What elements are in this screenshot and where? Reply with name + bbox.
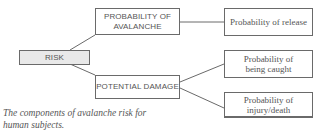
figure-caption: The components of avalanche risk for hum… (3, 107, 203, 131)
caption-line1: The components of avalanche risk for (3, 107, 203, 119)
node-probability-of-release: Probability of release (224, 8, 313, 36)
node-label: POTENTIAL DAMAGE (96, 82, 179, 92)
node-label-line1: Probability of (244, 95, 294, 105)
node-probability-of-avalanche: PROBABILITY OF AVALANCHE (95, 8, 180, 35)
node-label-line1: Probability of (244, 54, 294, 64)
connector-risk-probability (70, 35, 95, 50)
node-label-line2: being caught (245, 64, 291, 74)
connector-risk-damage (70, 64, 95, 75)
node-potential-damage: POTENTIAL DAMAGE (95, 75, 180, 99)
node-label-line2: injury/death (247, 105, 291, 115)
node-label-line1: PROBABILITY OF (104, 12, 171, 22)
node-label-line2: AVALANCHE (113, 22, 161, 32)
node-risk: RISK (19, 50, 90, 65)
node-probability-of-injury-death: Probability of injury/death (224, 92, 313, 118)
connector-damage-injury (180, 88, 224, 108)
node-risk-label: RISK (45, 53, 64, 63)
caption-line2: human subjects. (3, 119, 203, 131)
node-probability-of-being-caught: Probability of being caught (224, 50, 313, 78)
node-label: Probability of release (230, 17, 307, 27)
connector-damage-caught (180, 64, 224, 82)
